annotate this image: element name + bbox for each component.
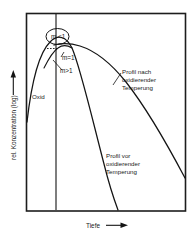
label-after-line1: Profil nach bbox=[122, 68, 152, 75]
y-axis-label: rel. Konzentration (log) bbox=[10, 95, 18, 160]
curve-before-anneal bbox=[27, 37, 118, 210]
x-axis-label-group: Tiefe bbox=[86, 222, 128, 229]
label-before-line3: Temperung bbox=[106, 168, 138, 175]
figure-container: m <1 m=1 m>1 Oxid Profil nach oxidierend… bbox=[0, 0, 196, 237]
label-oxid: Oxid bbox=[32, 93, 45, 100]
label-after-line3: Temperung bbox=[122, 84, 154, 91]
x-axis-arrow-head bbox=[121, 223, 129, 229]
x-axis-label: Tiefe bbox=[86, 222, 100, 229]
y-axis-arrow-head bbox=[11, 70, 16, 78]
label-before-line1: Profil vor bbox=[106, 152, 130, 159]
plot-canvas: m <1 m=1 m>1 Oxid Profil nach oxidierend… bbox=[0, 0, 196, 237]
label-m-less: m <1 bbox=[51, 33, 66, 40]
label-before-line2: oxidierender bbox=[106, 160, 140, 167]
label-m-greater: m>1 bbox=[60, 67, 73, 74]
after-label-leader bbox=[113, 73, 121, 85]
y-axis-label-group: rel. Konzentration (log) bbox=[10, 70, 18, 160]
label-after-line2: oxidierender bbox=[122, 76, 156, 83]
label-m-equal: m=1 bbox=[62, 54, 75, 61]
